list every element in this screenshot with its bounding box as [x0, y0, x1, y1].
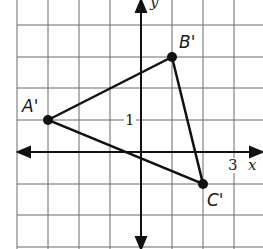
- coordinate-figure: A' B' C' 1 3 x y: [0, 0, 263, 249]
- x-axis-left-arrow-icon: [18, 147, 30, 157]
- label-b: B': [179, 34, 195, 51]
- point-c: [198, 179, 208, 189]
- axes: [18, 0, 262, 249]
- y-tick-1: 1: [124, 113, 136, 128]
- label-a: A': [22, 98, 38, 115]
- x-axis-label: x: [248, 158, 256, 173]
- y-axis-label: y: [150, 0, 158, 10]
- x-tick-3: 3: [227, 158, 239, 173]
- point-a: [43, 115, 53, 125]
- y-axis-up-arrow-icon: [136, 0, 146, 12]
- label-c: C': [207, 192, 224, 209]
- point-b: [167, 52, 177, 62]
